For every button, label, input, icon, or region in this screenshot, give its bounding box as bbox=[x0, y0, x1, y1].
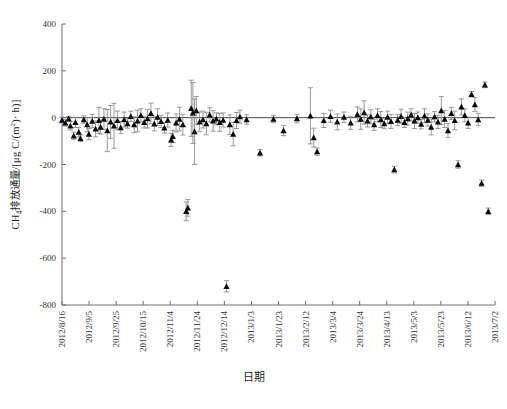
data-point-marker bbox=[307, 113, 313, 119]
x-axis-title: 日期 bbox=[0, 368, 507, 384]
data-point-marker bbox=[482, 82, 488, 88]
data-point-marker bbox=[180, 122, 186, 128]
data-point-marker bbox=[354, 111, 360, 117]
data-point-marker bbox=[67, 123, 73, 129]
data-point-marker bbox=[191, 129, 197, 135]
data-point-marker bbox=[213, 116, 219, 122]
x-tick-label: 2013/2/12 bbox=[301, 311, 311, 348]
data-point-marker bbox=[128, 113, 134, 119]
data-point-marker bbox=[311, 134, 317, 140]
y-tick-label: 200 bbox=[43, 66, 57, 76]
data-point-marker bbox=[77, 135, 83, 141]
x-tick-label: 2012/11/4 bbox=[165, 311, 175, 348]
data-point-marker bbox=[321, 117, 327, 123]
plot-canvas: 4002000-200-400-600-800 2012/8/162012/9/… bbox=[0, 0, 507, 409]
data-point-marker bbox=[341, 114, 347, 120]
data-point-marker bbox=[431, 114, 437, 120]
data-point-marker bbox=[391, 167, 397, 173]
data-point-marker bbox=[98, 124, 104, 130]
data-point-marker bbox=[361, 109, 367, 115]
data-point-marker bbox=[170, 133, 176, 139]
data-point-marker bbox=[148, 110, 154, 116]
x-tick-label: 2013/4/13 bbox=[382, 311, 392, 348]
x-tick-label: 2012/12/14 bbox=[219, 311, 229, 353]
data-point-marker bbox=[371, 122, 377, 128]
data-point-marker bbox=[72, 119, 78, 125]
data-point-marker bbox=[348, 120, 354, 126]
data-point-marker bbox=[334, 119, 340, 125]
data-point-marker bbox=[270, 116, 276, 122]
x-tick-labels: 2012/8/162012/9/52012/9/252012/10/152012… bbox=[57, 311, 500, 353]
x-tick-label: 2013/1/3 bbox=[246, 311, 256, 344]
data-point-marker bbox=[92, 126, 98, 132]
x-tick-label: 2013/5/23 bbox=[436, 311, 446, 348]
x-tick-label: 2012/8/16 bbox=[57, 311, 67, 348]
error-bars bbox=[60, 80, 491, 292]
data-point-marker bbox=[223, 283, 229, 289]
x-tick-label: 2013/6/12 bbox=[463, 311, 473, 348]
data-point-marker bbox=[134, 118, 140, 124]
y-axis-title-wrap: CH4排放通量/[μg C/(m2)· h)] bbox=[6, 0, 26, 330]
data-point-marker bbox=[280, 127, 286, 133]
data-point-marker bbox=[472, 101, 478, 107]
data-point-marker bbox=[485, 208, 491, 214]
data-point-marker bbox=[458, 104, 464, 110]
axes bbox=[62, 24, 495, 305]
data-point-marker bbox=[237, 114, 243, 120]
data-point-marker bbox=[418, 121, 424, 127]
x-tick-label: 2012/11/24 bbox=[192, 311, 202, 352]
data-point-marker bbox=[176, 116, 182, 122]
data-point-marker bbox=[257, 150, 263, 156]
data-point-marker bbox=[114, 117, 120, 123]
data-point-marker bbox=[452, 117, 458, 123]
data-point-marker bbox=[185, 205, 191, 211]
x-tick-label: 2013/1/23 bbox=[274, 311, 284, 348]
y-tick-label: -800 bbox=[40, 300, 57, 310]
data-point-marker bbox=[188, 105, 194, 111]
data-point-marker bbox=[84, 122, 90, 128]
data-point-marker bbox=[442, 116, 448, 122]
x-tick-label: 2013/3/4 bbox=[328, 311, 338, 344]
data-point-marker bbox=[76, 129, 82, 135]
data-point-marker bbox=[101, 116, 107, 122]
data-point-marker bbox=[374, 112, 380, 118]
data-point-marker bbox=[230, 131, 236, 137]
y-axis-title: CH4排放通量/[μg C/(m2)· h)] bbox=[7, 100, 24, 230]
data-point-marker bbox=[314, 149, 320, 155]
data-point-marker bbox=[71, 133, 77, 139]
x-tick-label: 2013/5/3 bbox=[409, 311, 419, 344]
data-point-marker bbox=[428, 124, 434, 130]
data-point-marker bbox=[445, 127, 451, 133]
data-point-marker bbox=[455, 161, 461, 167]
data-point-marker bbox=[104, 127, 110, 133]
y-tick-label: 0 bbox=[52, 113, 57, 123]
data-point-marker bbox=[478, 180, 484, 186]
data-point-marker bbox=[138, 112, 144, 118]
data-point-marker bbox=[465, 120, 471, 126]
data-point-marker bbox=[108, 119, 114, 125]
y-tick-label: -200 bbox=[40, 160, 57, 170]
data-point-marker bbox=[327, 113, 333, 119]
x-tick-label: 2013/7/2 bbox=[490, 311, 500, 343]
x-tick-label: 2013/3/24 bbox=[355, 311, 365, 348]
data-point-marker bbox=[384, 114, 390, 120]
y-tick-labels: 4002000-200-400-600-800 bbox=[40, 19, 57, 310]
x-tick-label: 2012/9/25 bbox=[111, 311, 121, 348]
x-tick-label: 2012/10/15 bbox=[138, 311, 148, 353]
y-tick-label: 400 bbox=[43, 19, 57, 29]
data-point-marker bbox=[408, 112, 414, 118]
ch4-flux-scatter-figure: 4002000-200-400-600-800 2012/8/162012/9/… bbox=[0, 0, 507, 409]
data-point-marker bbox=[193, 108, 199, 114]
x-tick-label: 2012/9/5 bbox=[84, 311, 94, 344]
y-tick-label: -400 bbox=[40, 206, 57, 216]
data-point-marker bbox=[468, 91, 474, 97]
data-point-marker bbox=[294, 116, 300, 122]
y-tick-label: -600 bbox=[40, 253, 57, 263]
